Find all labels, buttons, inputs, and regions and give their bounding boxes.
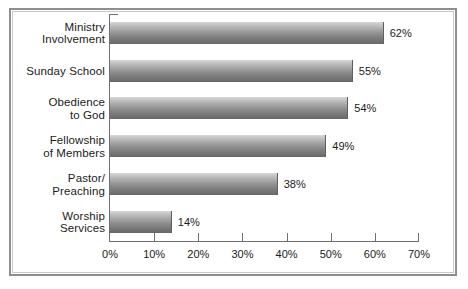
x-axis-tick-label: 0% xyxy=(102,248,118,260)
bar-chart: Ministry Involvement62%Sunday School55%O… xyxy=(11,10,459,278)
category-label: Fellowship of Members xyxy=(43,134,105,159)
category-label: Worship Services xyxy=(60,209,105,234)
bar-track: 62% xyxy=(110,22,419,44)
bar-row: Pastor/ Preaching38% xyxy=(11,165,459,203)
x-axis-tick xyxy=(242,233,243,241)
bar-track: 49% xyxy=(110,135,419,157)
x-axis-tick xyxy=(198,233,199,241)
bar xyxy=(110,97,348,119)
bar-track: 54% xyxy=(110,97,419,119)
x-axis-tick-label: 20% xyxy=(187,248,209,260)
bar xyxy=(110,211,172,233)
x-axis-tick xyxy=(154,233,155,241)
x-axis-tick-label: 50% xyxy=(320,248,342,260)
bar-row: Worship Services14% xyxy=(11,203,459,241)
x-axis-tick xyxy=(331,233,332,241)
x-axis-tick-label: 30% xyxy=(231,248,253,260)
bar-rows: Ministry Involvement62%Sunday School55%O… xyxy=(11,14,459,241)
bar xyxy=(110,173,278,195)
bar xyxy=(110,135,326,157)
chart-frame: Ministry Involvement62%Sunday School55%O… xyxy=(9,8,457,276)
category-label: Pastor/ Preaching xyxy=(52,172,105,197)
bar-row: Sunday School55% xyxy=(11,52,459,90)
x-axis-tick-label: 60% xyxy=(364,248,386,260)
category-label: Obedience to God xyxy=(48,96,105,121)
bar-row: Ministry Involvement62% xyxy=(11,14,459,52)
category-label: Sunday School xyxy=(26,64,105,77)
bar-track: 55% xyxy=(110,60,419,82)
x-axis-tick-label: 10% xyxy=(143,248,165,260)
bar-track: 14% xyxy=(110,211,419,233)
x-axis-tick xyxy=(287,233,288,241)
x-axis-tick-labels: 0%10%20%30%40%50%60%70% xyxy=(11,248,459,264)
bar-value-label: 54% xyxy=(348,102,376,114)
bar-value-label: 62% xyxy=(384,27,412,39)
bar-row: Fellowship of Members49% xyxy=(11,127,459,165)
x-axis-tick xyxy=(375,233,376,241)
x-axis-tick-label: 40% xyxy=(276,248,298,260)
bar-row: Obedience to God54% xyxy=(11,90,459,128)
bar-track: 38% xyxy=(110,173,419,195)
bar-value-label: 49% xyxy=(326,140,354,152)
bar xyxy=(110,60,353,82)
bar xyxy=(110,22,384,44)
bar-value-label: 55% xyxy=(353,65,381,77)
bar-value-label: 38% xyxy=(278,178,306,190)
x-axis-tick-label: 70% xyxy=(408,248,430,260)
bar-value-label: 14% xyxy=(172,216,200,228)
category-label: Ministry Involvement xyxy=(42,20,105,45)
